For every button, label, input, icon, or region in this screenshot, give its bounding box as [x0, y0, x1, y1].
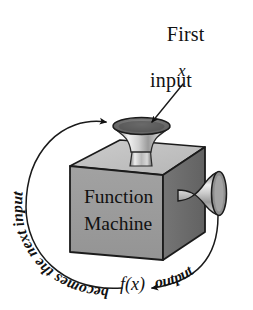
input-variable-label: x	[178, 62, 186, 79]
first-input-line1: First	[167, 23, 205, 45]
first-input-line2: input	[146, 70, 205, 90]
machine-label-line1: Function	[84, 186, 154, 207]
output-value-label: f(x)	[120, 275, 145, 293]
output-arrow-label: output	[154, 261, 197, 290]
machine-label-line2: Machine	[84, 213, 152, 234]
spout-mouth-inner	[214, 176, 223, 212]
output-arrow-label-text: output	[154, 261, 197, 290]
diagram-canvas: becomes the next input Function Machine	[0, 0, 253, 310]
function-machine-diagram: becomes the next input Function Machine	[0, 0, 253, 310]
first-input-label: First input	[146, 4, 205, 130]
